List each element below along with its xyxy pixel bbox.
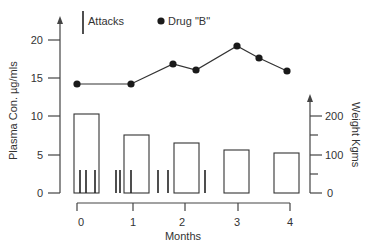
weight-bar-4 [274, 153, 299, 193]
left-tick-10: 10 [31, 110, 43, 122]
drug-b-point [169, 60, 176, 67]
x-tick-1: 1 [130, 216, 136, 228]
left-axis-label: Plasma Con. µg/mls [7, 61, 19, 160]
weight-bar-2 [174, 143, 199, 193]
legend-drug-b: Drug "B" [168, 15, 210, 27]
drug-b-series [73, 42, 290, 87]
left-axis: 0 5 10 15 20 Plasma Con. µg/mls [7, 16, 63, 199]
right-tick-200: 200 [325, 110, 343, 122]
right-tick-100: 100 [325, 149, 343, 161]
drug-legend-icon [157, 17, 164, 24]
legend: Attacks Drug "B" [83, 11, 210, 34]
drug-b-point [192, 66, 199, 73]
chart: 0 5 10 15 20 Plasma Con. µg/mls 0 100 20… [0, 0, 372, 248]
drug-b-point [127, 80, 134, 87]
left-tick-5: 5 [37, 149, 43, 161]
x-tick-3: 3 [234, 216, 240, 228]
x-axis: 0 1 2 3 4 Months [77, 203, 293, 242]
right-tick-0: 0 [327, 187, 333, 199]
left-tick-20: 20 [31, 34, 43, 46]
x-tick-2: 2 [179, 216, 185, 228]
drug-b-point [233, 42, 240, 49]
left-tick-0: 0 [37, 187, 43, 199]
x-tick-0: 0 [78, 216, 84, 228]
right-axis: 0 100 200 Weight Kgms [307, 94, 362, 199]
left-tick-15: 15 [31, 72, 43, 84]
weight-bars [74, 114, 299, 193]
right-axis-label: Weight Kgms [350, 102, 362, 168]
legend-attacks: Attacks [88, 15, 125, 27]
x-tick-4: 4 [287, 216, 293, 228]
drug-b-point [283, 67, 290, 74]
drug-b-point [73, 80, 80, 87]
x-axis-label: Months [165, 230, 202, 242]
weight-bar-3 [224, 150, 249, 193]
drug-b-point [255, 54, 262, 61]
weight-bar-1 [124, 135, 149, 193]
